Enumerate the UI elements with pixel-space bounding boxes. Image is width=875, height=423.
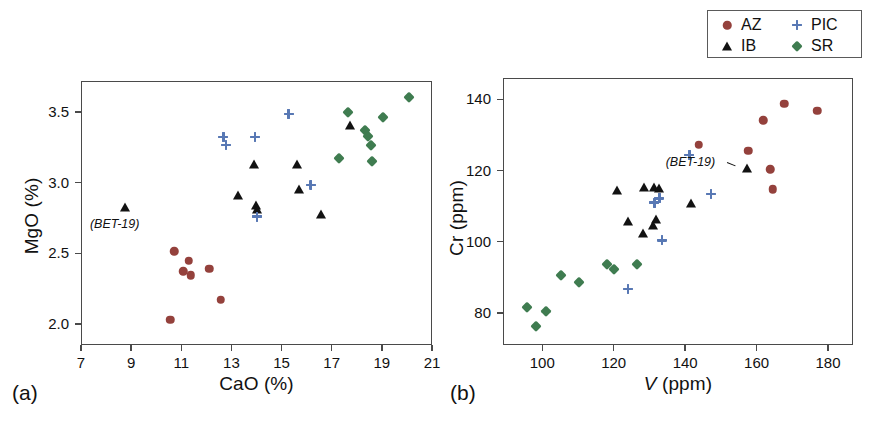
legend-item-pic[interactable]: PIC — [790, 15, 838, 35]
data-point-az-a-0 — [170, 247, 179, 256]
legend-item-az[interactable]: AZ — [720, 15, 761, 35]
legend-glyph-az-icon — [723, 21, 732, 30]
panel-label-a: (a) — [12, 381, 38, 405]
x-tick-label-b-4: 180 — [803, 354, 853, 371]
data-point-pic-b-4 — [657, 235, 667, 245]
legend-label-sr: SR — [811, 38, 833, 54]
data-point-ib-b-4 — [623, 217, 633, 226]
x-axis-title-a: CaO (%) — [81, 373, 432, 395]
data-point-ib-b-8 — [686, 199, 696, 208]
x-tick-label-b-3: 160 — [732, 354, 782, 371]
legend-item-sr[interactable]: SR — [790, 36, 833, 56]
y-tick-mark-b-2 — [497, 170, 503, 171]
x-tick-mark-b-4 — [827, 345, 828, 351]
data-point-ib-b-9 — [742, 163, 752, 172]
legend-marker-az-icon — [720, 18, 734, 32]
data-point-ib-b-6 — [648, 220, 658, 229]
x-tick-mark-b-2 — [684, 345, 685, 351]
data-point-pic-b-5 — [623, 284, 633, 294]
data-point-ib-a-8 — [345, 120, 355, 129]
data-point-ib-a-2 — [249, 160, 259, 169]
panel-label-b: (b) — [450, 381, 476, 405]
figure-canvas: 791113151719212.02.53.03.5 (BET-19) CaO … — [0, 0, 875, 423]
x-tick-mark-a-5 — [331, 345, 332, 351]
x-tick-label-b-0: 100 — [517, 354, 567, 371]
data-point-az-a-5 — [216, 295, 225, 304]
x-tick-label-a-4: 15 — [257, 354, 307, 371]
x-tick-label-a-3: 13 — [206, 354, 256, 371]
data-point-az-b-6 — [768, 185, 777, 194]
x-tick-mark-b-1 — [613, 345, 614, 351]
y-tick-mark-b-3 — [497, 99, 503, 100]
scatter-panel-a: 791113151719212.02.53.03.5 (BET-19) CaO … — [0, 0, 437, 423]
y-axis-title-b: Cr (ppm) — [446, 85, 468, 352]
legend-label-ib: IB — [741, 38, 756, 54]
data-point-ib-b-1 — [639, 182, 649, 191]
legend-marker-pic-icon — [790, 18, 804, 32]
x-tick-label-b-2: 140 — [660, 354, 710, 371]
legend-glyph-pic-icon — [792, 20, 802, 30]
data-point-pic-a-1 — [221, 140, 231, 150]
legend-marker-sr-icon — [790, 39, 804, 53]
data-point-az-b-0 — [694, 141, 703, 150]
x-axis-unit-b: (ppm) — [657, 373, 713, 394]
x-tick-mark-a-4 — [281, 345, 282, 351]
data-point-az-b-5 — [766, 165, 775, 174]
annotation-bet19-a: (BET-19) — [90, 217, 140, 231]
data-point-az-b-3 — [780, 99, 789, 108]
x-tick-mark-a-0 — [80, 345, 81, 351]
x-tick-label-a-2: 11 — [156, 354, 206, 371]
legend-glyph-ib-icon — [722, 42, 732, 51]
legend-marker-ib-icon — [720, 39, 734, 53]
y-tick-mark-a-1 — [75, 253, 81, 254]
data-point-az-b-2 — [759, 116, 768, 125]
x-axis-variable-b: V — [644, 373, 657, 394]
y-tick-mark-b-0 — [497, 312, 503, 313]
scatter-panel-b: 10012014016018080100120140 (BET-19) V (p… — [438, 0, 875, 423]
x-tick-mark-a-2 — [181, 345, 182, 351]
data-point-az-a-4 — [205, 265, 214, 274]
legend-label-pic: PIC — [811, 17, 838, 33]
data-point-ib-a-0 — [120, 203, 130, 212]
y-tick-mark-b-1 — [497, 241, 503, 242]
data-point-pic-a-3 — [252, 212, 262, 222]
x-tick-label-b-1: 120 — [589, 354, 639, 371]
y-tick-mark-a-3 — [75, 111, 81, 112]
data-point-az-b-4 — [813, 107, 822, 116]
data-point-pic-a-2 — [250, 132, 260, 142]
data-point-ib-a-1 — [233, 190, 243, 199]
data-point-pic-b-1 — [706, 189, 716, 199]
data-point-az-a-6 — [166, 315, 175, 324]
x-tick-mark-a-1 — [130, 345, 131, 351]
x-axis-title-b: V (ppm) — [503, 373, 853, 395]
legend-label-az: AZ — [741, 17, 761, 33]
data-point-pic-a-5 — [306, 180, 316, 190]
legend-glyph-sr-icon — [792, 41, 803, 52]
y-tick-mark-a-0 — [75, 323, 81, 324]
data-point-ib-b-7 — [638, 228, 648, 237]
data-point-ib-a-5 — [292, 159, 302, 168]
x-tick-label-a-6: 19 — [357, 354, 407, 371]
x-tick-label-a-0: 7 — [56, 354, 106, 371]
annotation-bet19-b: (BET-19) — [666, 155, 716, 169]
data-point-pic-b-3 — [649, 198, 659, 208]
data-point-pic-a-4 — [284, 109, 294, 119]
x-tick-mark-a-6 — [381, 345, 382, 351]
data-point-ib-a-6 — [294, 185, 304, 194]
data-point-ib-a-7 — [316, 209, 326, 218]
data-point-ib-b-0 — [612, 185, 622, 194]
x-tick-mark-a-3 — [231, 345, 232, 351]
y-tick-mark-a-2 — [75, 182, 81, 183]
y-axis-title-a: MgO (%) — [21, 84, 43, 348]
x-tick-label-a-1: 9 — [106, 354, 156, 371]
data-point-ib-b-3 — [654, 183, 664, 192]
data-point-az-b-1 — [744, 146, 753, 155]
legend-item-ib[interactable]: IB — [720, 36, 756, 56]
plot-area-b — [503, 78, 853, 345]
legend: AZPICIBSR — [707, 10, 862, 58]
x-tick-mark-b-3 — [756, 345, 757, 351]
data-point-az-a-3 — [187, 271, 196, 280]
data-point-az-a-1 — [185, 256, 194, 265]
x-tick-label-a-5: 17 — [307, 354, 357, 371]
x-tick-mark-a-7 — [431, 345, 432, 351]
